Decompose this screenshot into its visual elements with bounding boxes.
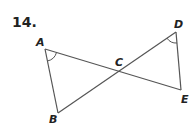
label-e: E <box>181 93 189 106</box>
label-c: C <box>115 56 123 69</box>
segment-ab <box>45 49 58 113</box>
segment-de <box>176 32 181 90</box>
triangle-figure <box>0 0 195 125</box>
angle-mark-d <box>167 38 177 43</box>
angle-mark-a <box>47 53 56 62</box>
segment-bd <box>58 32 176 113</box>
label-a: A <box>36 36 45 49</box>
label-d: D <box>174 18 183 31</box>
label-b: B <box>49 113 57 125</box>
segment-ae <box>45 49 181 90</box>
